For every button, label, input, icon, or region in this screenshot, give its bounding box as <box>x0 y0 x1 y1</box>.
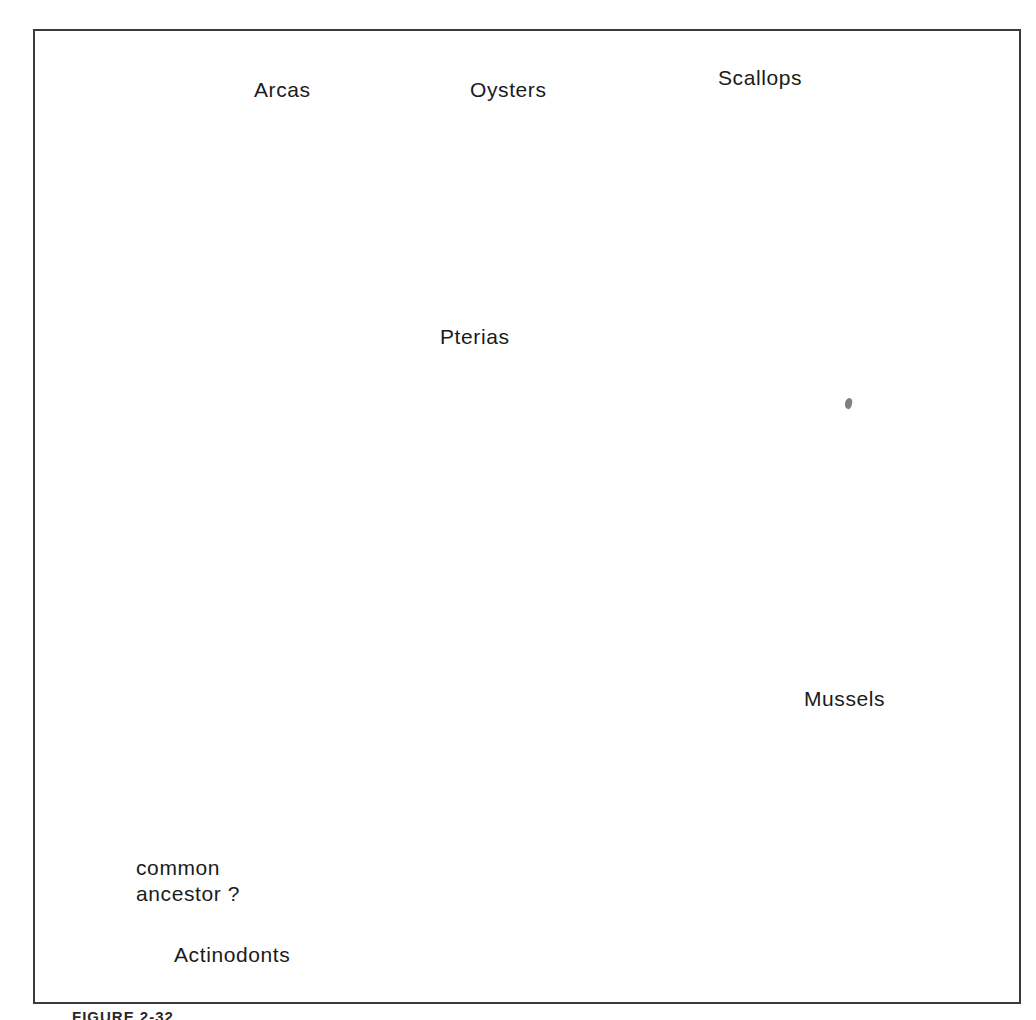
label-oysters: Oysters <box>470 78 547 102</box>
figure-caption: FIGURE 2-32 <box>72 1008 174 1020</box>
label-pterias: Pterias <box>440 325 510 349</box>
label-common-ancestor-line1: common <box>136 855 240 881</box>
label-mussels: Mussels <box>804 687 885 711</box>
label-common-ancestor-line2: ancestor ? <box>136 881 240 907</box>
label-common-ancestor: common ancestor ? <box>136 855 240 907</box>
label-arcas: Arcas <box>254 78 311 102</box>
label-actinodonts: Actinodonts <box>174 943 290 967</box>
label-scallops: Scallops <box>718 66 802 90</box>
